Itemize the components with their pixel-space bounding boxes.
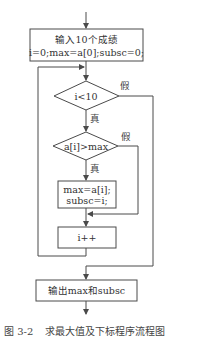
input-box-line1: 输入10个成绩 [55, 34, 117, 45]
flowchart: 输入10个成绩 i=0;max=a[0];subsc=0; i<10 假 真 a… [0, 0, 199, 343]
loop-condition-text: i<10 [74, 91, 97, 102]
assign-box-line1: max=a[i]; [63, 184, 110, 195]
assign-box-line2: subsc=i; [66, 195, 107, 206]
loop-false-label: 假 [120, 80, 130, 91]
figure-number: 图 3-2 [4, 326, 33, 337]
max-false-label: 假 [121, 131, 131, 142]
loop-condition-diamond: i<10 [54, 81, 119, 110]
output-box-text: 输出max和subsc [48, 285, 125, 296]
output-box: 输出max和subsc [36, 280, 137, 301]
max-true-label: 真 [90, 163, 100, 174]
input-box-line2: i=0;max=a[0];subsc=0; [29, 47, 144, 58]
increment-box: i++ [58, 227, 116, 248]
input-box: 输入10个成绩 i=0;max=a[0];subsc=0; [29, 29, 144, 61]
figure-title: 求最大值及下标程序流程图 [45, 325, 165, 337]
figure-caption: 图 3-2 求最大值及下标程序流程图 [4, 325, 165, 337]
max-condition-text: a[i]>max [64, 141, 109, 152]
loop-true-label: 真 [90, 113, 100, 124]
assign-box: max=a[i]; subsc=i; [58, 181, 116, 208]
max-condition-diamond: a[i]>max [53, 132, 118, 160]
increment-box-text: i++ [78, 232, 97, 243]
